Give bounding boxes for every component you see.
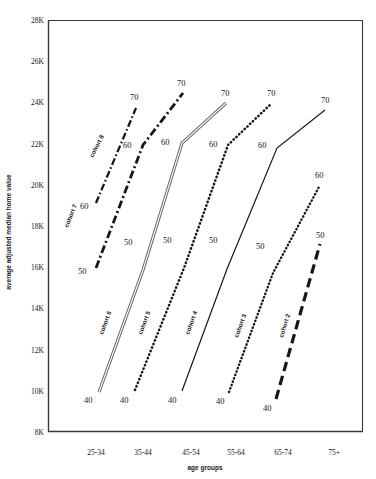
y-tick-label: 10K — [31, 387, 45, 396]
point-label: 40 — [84, 395, 93, 405]
point-label: 50 — [209, 235, 218, 245]
y-tick-label: 24K — [31, 98, 45, 107]
x-tick-label: 75+ — [328, 448, 340, 457]
x-tick-label: 25-34 — [87, 448, 105, 457]
point-label: 50 — [316, 230, 325, 240]
point-label: 70 — [130, 92, 139, 102]
point-label: 70 — [221, 88, 230, 98]
point-label: 70 — [321, 95, 330, 105]
y-tick-label: 12K — [31, 346, 45, 355]
point-label: 40 — [216, 396, 225, 406]
y-tick-label: 14K — [31, 304, 45, 313]
point-label: 60 — [80, 201, 89, 211]
y-axis-title: average adjusted median home value — [5, 174, 13, 290]
x-tick-label: 45-54 — [182, 448, 200, 457]
chart-container: 28K 26K 24K 22K 20K 18K 16K 14K 12K 10K … — [0, 0, 376, 479]
point-label: 50 — [163, 235, 172, 245]
y-tick-label: 26K — [31, 57, 45, 66]
point-label: 60 — [123, 140, 132, 150]
point-label: 70 — [267, 88, 276, 98]
point-label: 60 — [161, 137, 170, 147]
y-tick-label: 18K — [31, 222, 45, 231]
x-tick-label: 65-74 — [274, 448, 292, 457]
y-tick-label: 28K — [31, 16, 45, 25]
point-label: 50 — [124, 237, 133, 247]
point-label: 40 — [263, 403, 272, 413]
point-label: 40 — [168, 395, 177, 405]
x-axis-title: age groups — [187, 464, 222, 472]
point-label: 50 — [78, 266, 87, 276]
point-label: 40 — [120, 395, 129, 405]
point-label: 60 — [315, 170, 324, 180]
y-tick-label: 16K — [31, 263, 45, 272]
y-tick-label: 22K — [31, 140, 45, 149]
point-label: 60 — [258, 140, 267, 150]
point-label: 50 — [256, 241, 265, 251]
y-tick-label: 20K — [31, 181, 45, 190]
x-tick-label: 35-44 — [134, 448, 152, 457]
cohort-line-chart: 28K 26K 24K 22K 20K 18K 16K 14K 12K 10K … — [0, 0, 376, 479]
point-label: 60 — [209, 139, 218, 149]
point-label: 70 — [177, 78, 186, 88]
y-tick-label: 8K — [35, 428, 45, 437]
x-tick-label: 55-64 — [227, 448, 245, 457]
